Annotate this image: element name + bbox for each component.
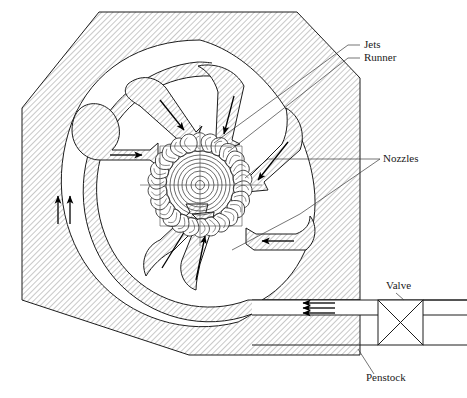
label-penstock: Penstock — [366, 371, 406, 383]
label-jets: Jets — [364, 38, 381, 50]
label-runner: Runner — [364, 51, 397, 63]
pelton-turbine-diagram: Jets Runner Nozzles Valve Penstock — [0, 0, 467, 398]
label-nozzles: Nozzles — [383, 152, 418, 164]
label-valve: Valve — [386, 279, 411, 291]
diagram-canvas: Jets Runner Nozzles Valve Penstock — [0, 0, 467, 398]
